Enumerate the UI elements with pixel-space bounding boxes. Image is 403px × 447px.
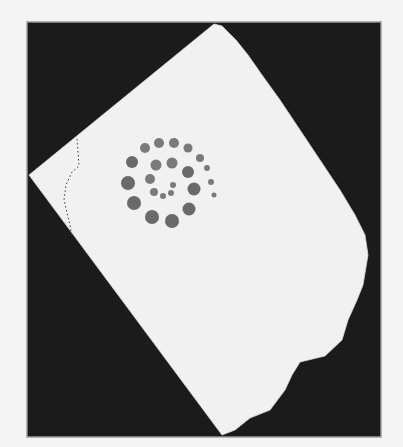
spiral-dot xyxy=(150,188,158,196)
spiral-dot xyxy=(169,138,179,148)
spiral-dot xyxy=(204,165,210,171)
spiral-dot xyxy=(167,158,178,169)
spiral-dot xyxy=(182,166,194,178)
spiral-dot xyxy=(127,196,141,210)
spiral-dot xyxy=(160,193,166,199)
spiral-dot xyxy=(196,154,204,162)
spiral-dot xyxy=(145,174,155,184)
spiral-dot xyxy=(212,193,217,198)
photo-canvas xyxy=(0,0,403,447)
spiral-dot xyxy=(170,182,176,188)
spiral-dot xyxy=(145,210,159,224)
spiral-dot xyxy=(140,143,150,153)
spiral-dot xyxy=(121,176,135,190)
spiral-dot xyxy=(208,179,214,185)
spiral-dot xyxy=(126,156,138,168)
spiral-dot xyxy=(188,183,201,196)
photo-torn-paper-dot-spiral: Photograph of a torn sheet of white pape… xyxy=(0,0,403,447)
spiral-dot xyxy=(154,138,164,148)
spiral-dot xyxy=(151,160,162,171)
spiral-dot xyxy=(168,190,174,196)
spiral-dot xyxy=(165,214,179,228)
spiral-dot xyxy=(184,144,193,153)
spiral-dot xyxy=(183,203,196,216)
